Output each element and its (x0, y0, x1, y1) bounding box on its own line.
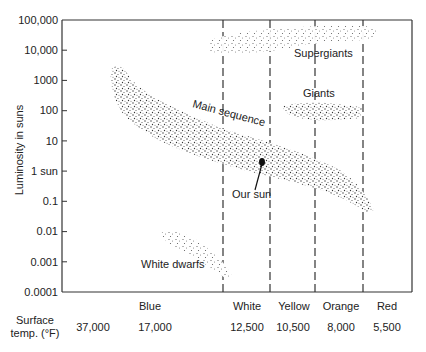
svg-text:10,000: 10,000 (24, 44, 58, 56)
svg-text:Blue: Blue (139, 300, 161, 312)
giants-label: Giants (303, 87, 335, 99)
svg-text:5,500: 5,500 (373, 321, 401, 333)
svg-text:1 sun: 1 sun (31, 165, 58, 177)
svg-text:8,000: 8,000 (327, 321, 355, 333)
svg-text:Orange: Orange (323, 300, 360, 312)
svg-text:12,500: 12,500 (230, 321, 264, 333)
svg-text:0.01: 0.01 (37, 225, 58, 237)
svg-text:White: White (233, 300, 261, 312)
y-axis-ticks (62, 50, 67, 262)
color-band-labels: Blue White Yellow Orange Red (139, 300, 397, 312)
svg-text:100,000: 100,000 (18, 14, 58, 26)
svg-text:10,500: 10,500 (276, 321, 310, 333)
svg-text:1000: 1000 (34, 74, 58, 86)
svg-text:Red: Red (377, 300, 397, 312)
x-axis-title-line1: Surface (16, 314, 54, 326)
temperature-labels: 37,000 17,000 12,500 10,500 8,000 5,500 (76, 321, 401, 333)
x-axis-title-line2: temp. (°F) (10, 327, 59, 339)
our-sun-label: Our sun (232, 188, 271, 200)
y-axis-title: Luminosity in suns (13, 104, 25, 195)
supergiants-label: Supergiants (294, 47, 353, 59)
svg-text:0.0001: 0.0001 (24, 286, 58, 298)
svg-text:37,000: 37,000 (76, 321, 110, 333)
svg-text:10: 10 (46, 135, 58, 147)
giants-region (283, 103, 362, 120)
svg-text:0.1: 0.1 (43, 195, 58, 207)
svg-text:0.001: 0.001 (30, 256, 58, 268)
svg-text:Yellow: Yellow (278, 300, 309, 312)
hr-diagram: Supergiants Giants Main sequence Our sun… (0, 0, 426, 352)
white-dwarfs-region (162, 231, 232, 278)
svg-text:17,000: 17,000 (138, 321, 172, 333)
white-dwarfs-label: White dwarfs (141, 258, 205, 270)
svg-text:100: 100 (40, 104, 58, 116)
